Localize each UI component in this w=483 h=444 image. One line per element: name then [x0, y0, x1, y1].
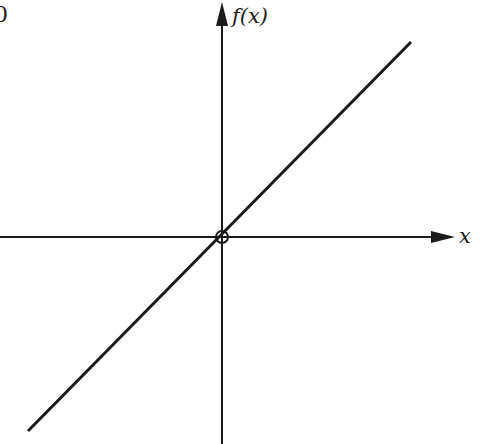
x-axis-arrow-icon — [431, 231, 455, 243]
y-axis-label: f(x) — [232, 4, 268, 28]
function-graph — [0, 0, 483, 444]
corner-fragment: 0 — [0, 2, 8, 27]
x-axis-label: x — [459, 224, 471, 248]
y-axis-arrow-icon — [216, 2, 228, 26]
